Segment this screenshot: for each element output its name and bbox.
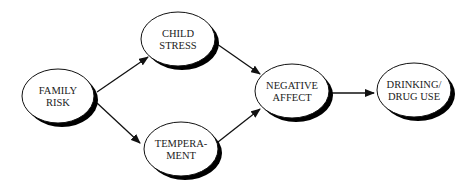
node-temperament: TEMPERA-MENT: [144, 122, 222, 180]
arrow-child_stress-to-negative_affect: [217, 44, 260, 74]
node-label: MENT: [166, 150, 196, 161]
node-label: NEGATIVE: [266, 80, 318, 91]
node-label: AFFECT: [272, 92, 312, 103]
node-label: TEMPERA-: [155, 138, 208, 149]
node-label: DRUG USE: [388, 91, 440, 102]
node-drinking_drug_use: DRINKING/DRUG USE: [377, 63, 455, 121]
node-label: RISK: [46, 97, 70, 108]
arrow-temperament-to-negative_affect: [218, 109, 260, 142]
node-label: STRESS: [159, 40, 197, 51]
node-label: FAMILY: [39, 85, 78, 96]
nodes-layer: FAMILYRISKCHILDSTRESSTEMPERA-MENTNEGATIV…: [22, 12, 455, 180]
arrow-family_risk-to-child_stress: [97, 57, 148, 92]
node-child_stress: CHILDSTRESS: [141, 12, 219, 70]
arrow-family_risk-to-temperament: [97, 103, 140, 143]
node-family_risk: FAMILYRISK: [22, 69, 98, 127]
node-negative_affect: NEGATIVEAFFECT: [255, 64, 333, 122]
node-label: CHILD: [162, 28, 194, 39]
node-label: DRINKING/: [387, 79, 442, 90]
path-diagram: FAMILYRISKCHILDSTRESSTEMPERA-MENTNEGATIV…: [0, 0, 468, 189]
